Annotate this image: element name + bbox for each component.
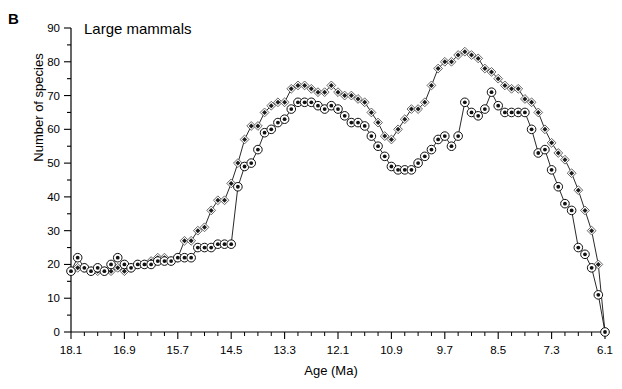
y-tick-label: 90 <box>47 22 60 34</box>
x-tick-label: 6.1 <box>597 344 613 356</box>
chart-plot-area: 0102030405060708090 18.116.915.714.513.3… <box>0 0 622 389</box>
y-tick-label: 50 <box>47 157 60 169</box>
x-axis-ticks: 18.116.915.714.513.312.110.99.78.57.36.1 <box>60 332 613 356</box>
series-diamond <box>67 47 610 336</box>
series-circle <box>67 88 610 336</box>
y-tick-label: 30 <box>47 225 60 237</box>
y-tick-label: 60 <box>47 123 60 135</box>
x-tick-label: 15.7 <box>167 344 189 356</box>
x-tick-label: 14.5 <box>220 344 242 356</box>
y-tick-label: 10 <box>47 292 60 304</box>
x-tick-label: 7.3 <box>544 344 560 356</box>
x-tick-label: 10.9 <box>380 344 402 356</box>
y-tick-label: 20 <box>47 258 60 270</box>
x-tick-label: 9.7 <box>437 344 453 356</box>
x-tick-label: 16.9 <box>113 344 135 356</box>
x-tick-label: 12.1 <box>327 344 349 356</box>
y-tick-label: 70 <box>47 90 60 102</box>
y-tick-label: 40 <box>47 191 60 203</box>
y-tick-label: 80 <box>47 56 60 68</box>
y-tick-label: 0 <box>54 326 60 338</box>
x-tick-label: 18.1 <box>60 344 82 356</box>
x-tick-label: 13.3 <box>273 344 295 356</box>
data-series-group <box>67 47 610 336</box>
y-axis-ticks: 0102030405060708090 <box>47 22 71 338</box>
x-tick-label: 8.5 <box>490 344 506 356</box>
